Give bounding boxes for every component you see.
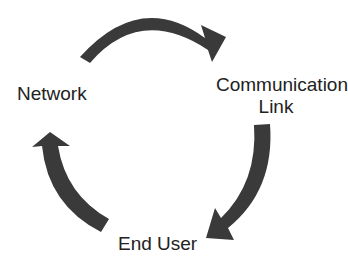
node-end-user: End User [118,233,197,255]
arrow-enduser-to-network-icon [32,132,109,232]
node-comm-line1: Communication [216,74,336,96]
arrow-comm-to-enduser-icon [206,124,270,240]
node-comm-line2: Link [216,96,336,118]
node-communication-link: Communication Link [216,74,336,118]
node-network: Network [17,83,87,105]
arrow-network-to-comm-icon [80,18,226,63]
